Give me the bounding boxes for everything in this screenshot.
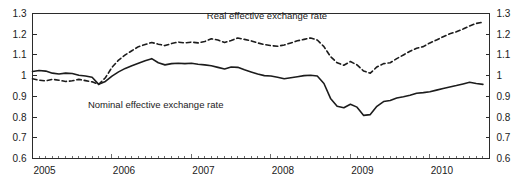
x-axis-tick-label: 2006 bbox=[113, 165, 136, 176]
y-axis-tick-label-right: 0.8 bbox=[497, 112, 511, 123]
chart-container: 1.31.21.110.90.80.70.6 1.31.21.110.90.80… bbox=[0, 0, 523, 186]
plot-area-frame bbox=[33, 14, 490, 159]
y-axis-tick-label-right: 0.6 bbox=[497, 153, 511, 164]
y-axis-right-tick-marks bbox=[486, 34, 490, 138]
x-axis-minor-tick-marks bbox=[33, 154, 483, 159]
series-label-real: Real effective exchange rate bbox=[207, 10, 327, 21]
x-axis-tick-label: 2007 bbox=[192, 165, 215, 176]
y-axis-right-tick-labels: 1.31.21.110.90.80.70.6 bbox=[497, 8, 511, 164]
y-axis-tick-label-right: 0.7 bbox=[497, 132, 511, 143]
y-axis-tick-label-right: 1.3 bbox=[497, 8, 511, 19]
y-axis-tick-label-right: 1.2 bbox=[497, 29, 511, 40]
y-axis-tick-label-right: 0.9 bbox=[497, 91, 511, 102]
axis-frame-path bbox=[33, 14, 490, 159]
y-axis-tick-label-left: 0.7 bbox=[13, 132, 27, 143]
series-label-nominal: Nominal effective exchange rate bbox=[88, 99, 224, 110]
y-axis-tick-label-right: 1 bbox=[497, 70, 503, 81]
x-axis-tick-label: 2008 bbox=[272, 165, 295, 176]
y-axis-tick-label-left: 0.6 bbox=[13, 153, 27, 164]
exchange-rate-line-chart: 1.31.21.110.90.80.70.6 1.31.21.110.90.80… bbox=[0, 0, 523, 186]
y-axis-tick-label-left: 1.2 bbox=[13, 29, 27, 40]
y-axis-tick-label-left: 0.9 bbox=[13, 91, 27, 102]
x-axis-tick-label: 2010 bbox=[431, 165, 454, 176]
y-axis-tick-label-right: 1.1 bbox=[497, 49, 511, 60]
y-axis-tick-label-left: 1.3 bbox=[13, 8, 27, 19]
series-line-real bbox=[33, 22, 483, 84]
x-axis-tick-label: 2009 bbox=[351, 165, 374, 176]
y-axis-left-tick-marks bbox=[33, 34, 37, 138]
x-axis-tick-label: 2005 bbox=[33, 165, 56, 176]
x-axis-tick-labels: 200520062007200820092010 bbox=[33, 165, 453, 176]
y-axis-tick-label-left: 1.1 bbox=[13, 49, 27, 60]
y-axis-tick-label-left: 0.8 bbox=[13, 112, 27, 123]
y-axis-left-tick-labels: 1.31.21.110.90.80.70.6 bbox=[13, 8, 27, 164]
y-axis-tick-label-left: 1 bbox=[21, 70, 27, 81]
series-annotation-labels: Real effective exchange rateNominal effe… bbox=[88, 10, 327, 109]
